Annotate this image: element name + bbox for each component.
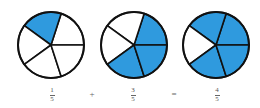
pie-chart-three-fifths [101, 12, 167, 78]
fraction-numerator: 4 [209, 87, 225, 94]
fraction-denominator: 5 [125, 96, 141, 103]
pie-chart-one-fifth [18, 12, 84, 78]
fraction-one-fifth: 1 5 [44, 87, 60, 103]
fraction-numerator: 3 [125, 87, 141, 94]
equals-sign: = [168, 90, 180, 99]
pie-chart-four-fifths [183, 12, 249, 78]
fraction-denominator: 5 [44, 96, 60, 103]
plus-sign: + [86, 90, 98, 99]
fraction-denominator: 5 [209, 96, 225, 103]
fraction-numerator: 1 [44, 87, 60, 94]
fraction-four-fifths: 4 5 [209, 87, 225, 103]
fraction-three-fifths: 3 5 [125, 87, 141, 103]
